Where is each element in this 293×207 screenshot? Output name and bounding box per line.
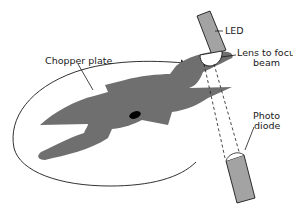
lens-label-line2: beam — [253, 58, 280, 68]
photodiode-leader — [245, 127, 254, 150]
photodiode-body — [226, 155, 255, 203]
diagram-graphics — [0, 0, 293, 207]
chopper-plate — [38, 52, 233, 160]
led-body — [197, 11, 226, 55]
chopper-plate-label: Chopper plate — [45, 56, 112, 66]
led-label: LED — [225, 26, 244, 36]
photodiode-label-line2: diode — [254, 121, 280, 131]
beam-line-left — [204, 64, 225, 158]
chopper-diagram: LED Lens to focus beam Chopper plate Pho… — [0, 0, 293, 207]
beam-line-right — [214, 64, 240, 155]
